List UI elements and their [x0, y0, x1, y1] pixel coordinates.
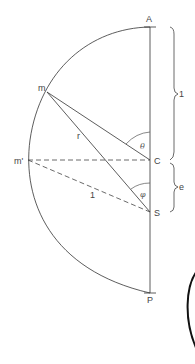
label-c: C	[154, 156, 161, 166]
line-m-c	[47, 92, 150, 160]
angle-theta-arc	[126, 132, 150, 144]
label-r: r	[77, 131, 80, 141]
orbit-geometry-diagram: A m m' C S P r 1 θ φ 1 e	[0, 0, 195, 364]
label-p: P	[147, 295, 153, 305]
brace-lower	[170, 163, 178, 212]
label-phi: φ	[140, 190, 146, 199]
angle-phi-arc	[131, 183, 150, 189]
label-mprime: m'	[14, 156, 23, 166]
partial-circle	[188, 271, 195, 350]
brace-upper	[170, 27, 178, 160]
label-one-segment: 1	[90, 190, 95, 200]
label-brace-upper: 1	[179, 89, 184, 99]
label-s: S	[154, 208, 160, 218]
label-a: A	[146, 14, 152, 24]
label-m: m	[38, 83, 46, 93]
label-brace-lower: e	[179, 182, 184, 192]
label-theta: θ	[140, 142, 145, 151]
line-mprime-s	[28, 160, 150, 212]
line-m-s	[47, 92, 150, 212]
